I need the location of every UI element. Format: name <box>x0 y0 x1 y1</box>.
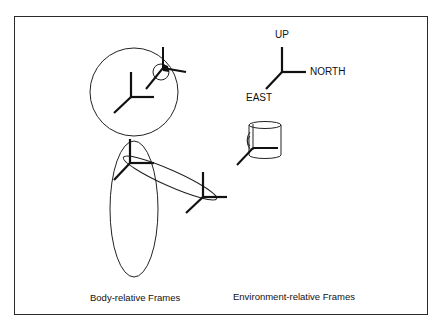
shoulder-frame-icon <box>114 139 154 180</box>
caption-environment-relative: Environment-relative Frames <box>233 292 355 302</box>
mug-icon <box>247 122 281 159</box>
axis-label-north: NORTH <box>310 67 345 77</box>
axis-label-up: UP <box>275 30 289 40</box>
mug-frame-icon <box>237 148 278 165</box>
hand-frame-icon <box>186 172 227 213</box>
caption-body-relative: Body-relative Frames <box>90 293 180 303</box>
diagram-canvas <box>0 0 444 327</box>
axis-label-east: EAST <box>246 93 272 103</box>
world-frame-icon <box>266 47 306 89</box>
head-circle <box>90 48 178 136</box>
